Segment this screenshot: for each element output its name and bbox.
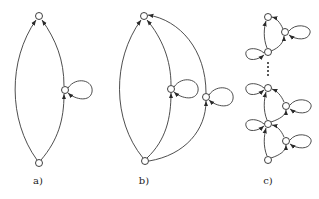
panel-c-graph [246, 14, 311, 164]
panel-a-graph [15, 13, 92, 167]
node-c-top [265, 14, 272, 21]
node-b-mid [168, 86, 175, 93]
node-c-upper-left [265, 49, 272, 56]
node-a-bottom [36, 160, 43, 167]
node-c-bottom [265, 157, 272, 164]
node-c-mid-right-2 [283, 138, 290, 145]
node-c-mid-2 [265, 121, 272, 128]
panel-c-label: c) [263, 175, 273, 186]
node-a-top [36, 13, 43, 20]
graph-figure [0, 0, 319, 199]
panel-a-label: a) [33, 175, 43, 186]
panel-b-graph [119, 13, 233, 165]
node-c-mid-1 [265, 85, 272, 92]
node-c-mid-right-1 [283, 103, 290, 110]
node-b-right [203, 94, 210, 101]
panel-b-label: b) [139, 175, 149, 186]
node-b-top [141, 13, 148, 20]
node-a-right [62, 87, 69, 94]
node-b-bottom [142, 158, 149, 165]
node-c-upper-right [282, 29, 289, 36]
